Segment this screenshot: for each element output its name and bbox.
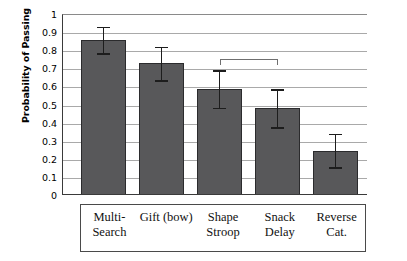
error-bar-cap-upper <box>97 27 110 29</box>
y-axis-tick-label: 0.7 <box>42 63 57 74</box>
significance-bracket <box>220 59 278 65</box>
y-axis-tick-label: 0.2 <box>42 153 57 164</box>
y-axis-tick-label: 0.8 <box>42 45 57 56</box>
error-bar-stem <box>277 89 279 129</box>
y-axis-tick-label: 0.6 <box>42 81 57 92</box>
bar <box>81 40 126 195</box>
x-axis-category-label: Gift (bow) <box>138 205 195 251</box>
error-bar-cap-lower <box>97 53 110 55</box>
error-bar-stem <box>103 27 105 55</box>
x-axis-category-labels: Multi- SearchGift (bow)Shape StroopSnack… <box>81 205 365 251</box>
error-bar-cap-lower <box>155 80 168 82</box>
bars-layer <box>63 15 367 195</box>
bar <box>139 63 184 195</box>
error-bar <box>313 134 358 169</box>
error-bar-stem <box>219 70 221 109</box>
error-bar-stem <box>161 47 163 82</box>
plot-area <box>62 14 367 195</box>
y-axis-tick-label: 1 <box>51 9 57 20</box>
error-bar-cap-lower <box>213 108 226 110</box>
y-axis-tick-label: 0.3 <box>42 135 57 146</box>
x-axis-category-label: Snack Delay <box>251 205 308 251</box>
x-axis-category-label: Multi- Search <box>81 205 138 251</box>
error-bar <box>139 47 184 82</box>
error-bar-stem <box>335 134 337 169</box>
y-axis-tick-label: 0.5 <box>42 99 57 110</box>
bar-chart: Probability of Passing 10.90.80.70.60.50… <box>0 0 407 261</box>
y-axis-tick-label: 0.4 <box>42 117 57 128</box>
error-bar-cap-upper <box>213 70 226 72</box>
x-axis-category-label: Reverse Cat. <box>308 205 365 251</box>
x-axis-line <box>62 194 367 195</box>
y-axis-tick-label: 0.1 <box>42 171 57 182</box>
error-bar <box>255 89 300 129</box>
y-axis-tick-labels: 10.90.80.70.60.50.40.30.20.10 <box>26 14 60 195</box>
x-axis-label-box: Multi- SearchGift (bow)Shape StroopSnack… <box>80 204 366 252</box>
error-bar <box>197 70 242 109</box>
error-bar-cap-upper <box>271 89 284 91</box>
error-bar-cap-upper <box>155 47 168 49</box>
y-axis-tick-label: 0.9 <box>42 27 57 38</box>
error-bar-cap-lower <box>329 167 342 169</box>
y-axis-tick-label: 0 <box>51 190 57 201</box>
error-bar-cap-lower <box>271 127 284 129</box>
error-bar-cap-upper <box>329 134 342 136</box>
error-bar <box>81 27 126 55</box>
x-axis-category-label: Shape Stroop <box>195 205 252 251</box>
